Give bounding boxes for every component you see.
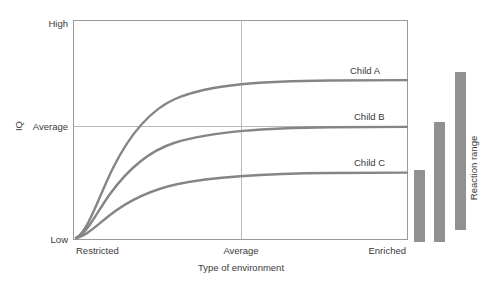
x-tick-enriched: Enriched — [369, 245, 407, 256]
range-bar-child-b — [434, 122, 445, 242]
y-tick-high: High — [48, 18, 68, 29]
y-tick-low: Low — [51, 234, 69, 245]
range-bar-child-a — [455, 72, 466, 230]
x-tick-restricted: Restricted — [76, 245, 119, 256]
range-bar-child-c — [414, 170, 425, 242]
reaction-range-chart: High Average Low IQ Restricted Average E… — [0, 0, 483, 286]
series-label-child-c: Child C — [354, 157, 385, 168]
y-axis-title: IQ — [13, 121, 24, 131]
y-tick-average: Average — [33, 121, 68, 132]
x-axis-title: Type of environment — [198, 262, 284, 273]
series-label-child-b: Child B — [354, 111, 385, 122]
x-tick-average: Average — [223, 245, 258, 256]
chart-canvas: High Average Low IQ Restricted Average E… — [0, 0, 483, 286]
series-label-child-a: Child A — [350, 65, 381, 76]
reaction-range-label: Reaction range — [468, 136, 479, 200]
